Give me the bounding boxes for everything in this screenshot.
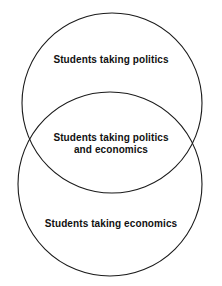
- label-politics-and-economics: Students taking politics and economics: [0, 132, 222, 156]
- label-overlap-line-2: and economics: [0, 144, 222, 156]
- label-politics: Students taking politics: [0, 54, 222, 66]
- label-overlap-line-1: Students taking politics: [0, 132, 222, 144]
- venn-diagram: Students taking politics Students taking…: [0, 0, 222, 286]
- label-economics: Students taking economics: [0, 218, 222, 230]
- circle-economics: [18, 92, 202, 276]
- circle-politics: [22, 13, 202, 193]
